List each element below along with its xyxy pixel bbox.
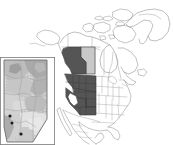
map-figure: North America base map with study area h… (0, 0, 173, 145)
us-northeast-boundary-b (122, 84, 127, 86)
baffin-island (113, 25, 136, 43)
alaska-outline (37, 30, 60, 45)
banks-island (83, 23, 94, 32)
gulf-of-mexico-coast (79, 122, 107, 131)
victoria-island (93, 22, 110, 33)
arctic-small-island-a (104, 16, 113, 21)
yucatan-peninsula (95, 133, 104, 144)
us-states-grid-horizontal-2 (95, 95, 127, 97)
arctic-small-island-e (100, 36, 106, 40)
hudson-bay-outline (100, 45, 118, 73)
us-states-grid-horizontal-4 (96, 113, 124, 115)
ellesmere-island (113, 9, 133, 21)
site-marker[interactable] (19, 132, 22, 135)
alberta-inset-map[interactable] (0, 57, 55, 145)
newfoundland (138, 69, 147, 76)
site-marker[interactable] (8, 114, 11, 117)
aleutian-chain (30, 43, 45, 46)
alberta-inset-panel[interactable] (0, 57, 55, 145)
labrador-coast (118, 48, 138, 74)
site-marker[interactable] (11, 122, 14, 125)
arctic-small-island-d (109, 35, 115, 39)
us-states-grid-vertical-8 (118, 104, 119, 118)
baja-california (57, 108, 72, 136)
florida-peninsula (107, 127, 120, 140)
arctic-small-island-b (95, 16, 103, 20)
us-states-grid-horizontal-5 (92, 122, 115, 123)
great-lakes-outline (109, 76, 117, 84)
greenland-south-tip (139, 36, 148, 44)
arctic-small-island-c (116, 22, 125, 26)
mainland-arctic-coast (60, 32, 110, 45)
greenland-interior-line (139, 14, 161, 19)
